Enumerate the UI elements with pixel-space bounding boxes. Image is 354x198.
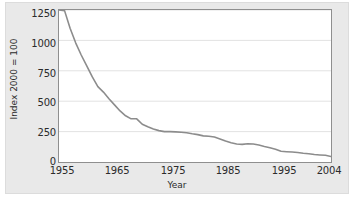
x-tick-label: 1965: [105, 165, 130, 176]
y-tick-label: 1250: [4, 9, 56, 19]
data-series-line: [59, 10, 331, 157]
x-tick-label: 2004: [317, 165, 342, 176]
plot-area: [58, 9, 332, 163]
y-tick-label: 1000: [4, 39, 56, 49]
x-tick-label: 1955: [50, 165, 75, 176]
x-axis-title: Year: [0, 180, 354, 190]
chart-figure: Index 2000 = 100 1250 1000 750 500 250 0…: [0, 0, 354, 198]
plot-svg: [59, 10, 331, 162]
x-tick-label: 1975: [161, 165, 186, 176]
y-tick-label: 500: [4, 98, 56, 108]
y-tick-label: 250: [4, 128, 56, 138]
gridlines: [59, 10, 331, 132]
y-tick-label: 750: [4, 69, 56, 79]
x-axis-ticks: 1955 1965 1975 1985 1995 2004: [0, 165, 354, 179]
x-tick-label: 1985: [216, 165, 241, 176]
x-tick-label: 1995: [272, 165, 297, 176]
